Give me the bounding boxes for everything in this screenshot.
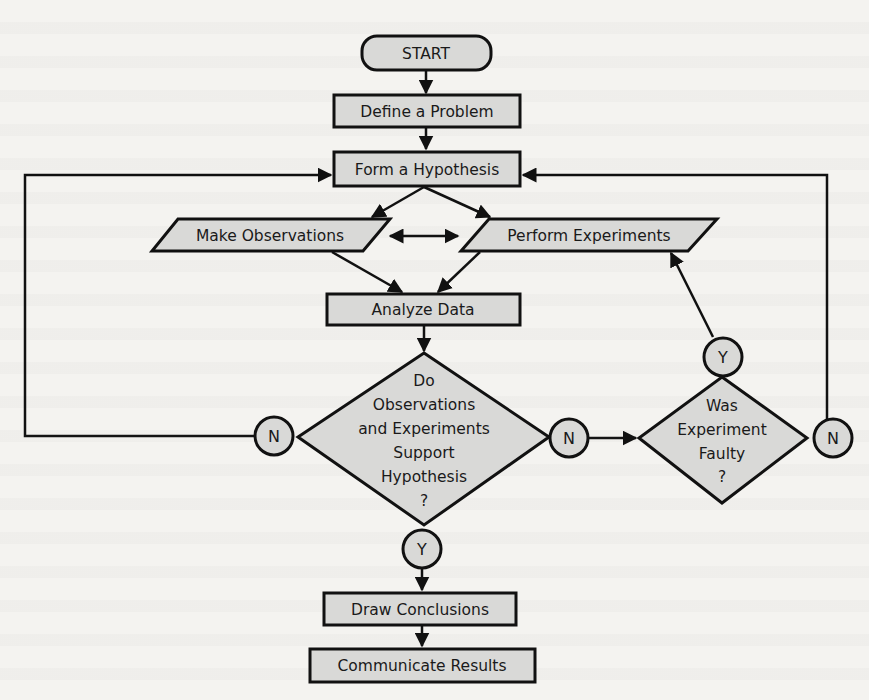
decision-support-line-4: Support (393, 444, 454, 462)
connector-no-faulty: N (814, 419, 852, 457)
connector-yes-support: Y (403, 530, 441, 568)
connector-no-left-label: N (268, 427, 280, 446)
connector-no-faulty-label: N (827, 429, 839, 448)
define-problem-label: Define a Problem (360, 103, 493, 121)
connector-no-left: N (255, 417, 293, 455)
analyze-data-label: Analyze Data (371, 301, 474, 319)
connector-yes-support-label: Y (416, 540, 427, 559)
arrow-observations-to-analyze (332, 252, 402, 292)
decision-support-hypothesis: Do Observations and Experiments Support … (298, 353, 549, 525)
connector-yes-faulty-label: Y (717, 348, 728, 367)
decision-faulty-line-2: Experiment (677, 421, 767, 439)
make-observations-label: Make Observations (196, 227, 344, 245)
decision-experiment-faulty: Was Experiment Faulty ? (639, 377, 807, 503)
draw-conclusions-label: Draw Conclusions (351, 601, 489, 619)
decision-support-line-6: ? (420, 492, 428, 510)
connector-no-right-label: N (563, 429, 575, 448)
start-label: START (402, 45, 450, 63)
form-hypothesis-box: Form a Hypothesis (334, 152, 520, 186)
scientific-method-flowchart: START Define a Problem Form a Hypothesis… (0, 0, 869, 700)
connector-yes-faulty: Y (704, 338, 742, 376)
analyze-data-box: Analyze Data (327, 294, 520, 325)
decision-support-line-5: Hypothesis (381, 468, 467, 486)
communicate-results-label: Communicate Results (338, 657, 507, 675)
perform-experiments-parallelogram: Perform Experiments (461, 219, 717, 251)
arrow-faulty-yes-to-experiments (671, 253, 713, 337)
perform-experiments-label: Perform Experiments (507, 227, 670, 245)
decision-faulty-line-4: ? (718, 468, 726, 486)
loop-no-to-hypothesis-left (25, 175, 331, 436)
decision-faulty-line-1: Was (706, 397, 738, 415)
make-observations-parallelogram: Make Observations (152, 219, 390, 251)
decision-support-line-2: Observations (373, 396, 475, 414)
connector-no-right: N (550, 419, 588, 457)
arrow-hypothesis-to-observations (372, 187, 424, 217)
form-hypothesis-label: Form a Hypothesis (355, 161, 499, 179)
communicate-results-box: Communicate Results (310, 649, 535, 682)
loop-no-to-hypothesis-right (523, 175, 827, 419)
decision-faulty-line-3: Faulty (699, 445, 745, 463)
define-problem-box: Define a Problem (334, 95, 520, 127)
arrow-experiments-to-analyze (438, 252, 480, 292)
decision-support-line-3: and Experiments (358, 420, 490, 438)
decision-support-line-1: Do (413, 372, 434, 390)
arrow-hypothesis-to-experiments (424, 187, 490, 217)
draw-conclusions-box: Draw Conclusions (324, 593, 516, 625)
start-terminal: START (362, 36, 491, 70)
